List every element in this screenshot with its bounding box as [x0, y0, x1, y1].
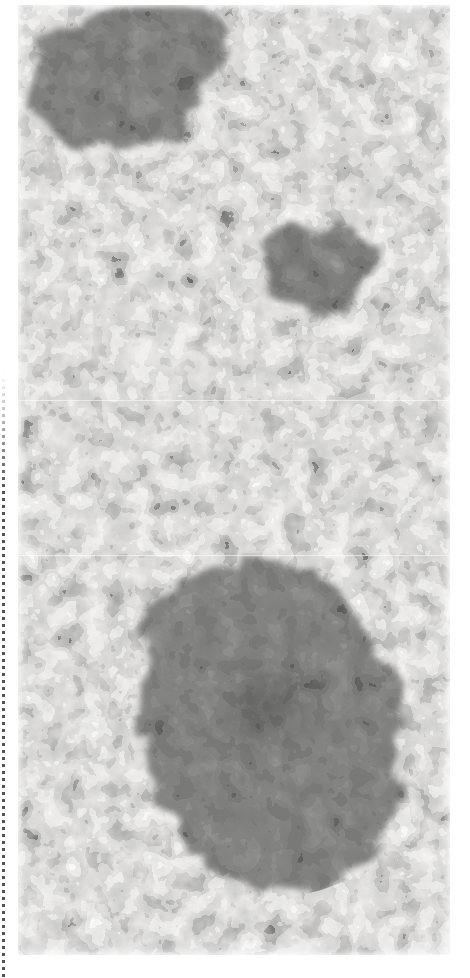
photographic-plate-image [18, 5, 450, 955]
scan-seam-lower [18, 555, 450, 556]
scanned-page [0, 0, 470, 978]
caption-margin [18, 957, 450, 977]
background-bright-clumps [18, 5, 450, 955]
scan-seam-upper [18, 400, 450, 401]
halftone-field [18, 5, 450, 955]
binding-rule-fade [2, 372, 5, 492]
